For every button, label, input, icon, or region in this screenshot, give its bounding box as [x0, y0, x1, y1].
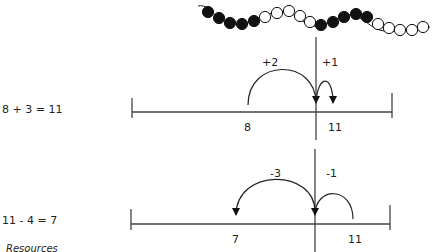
white-bead: [372, 18, 383, 29]
black-bead: [248, 15, 259, 26]
jump-arc-minus-1: [315, 194, 353, 219]
jump-label-plus-2: +2: [262, 56, 278, 69]
white-bead: [283, 5, 294, 16]
white-bead: [417, 21, 428, 32]
black-bead: [315, 19, 326, 30]
white-bead: [271, 7, 282, 18]
black-bead: [327, 16, 338, 27]
white-bead: [294, 10, 305, 21]
jump-label-minus-3: -3: [270, 167, 281, 180]
black-bead: [202, 6, 213, 17]
white-bead: [304, 16, 315, 27]
black-bead: [350, 8, 361, 19]
jump-arc-plus-1: [316, 81, 333, 103]
black-bead: [361, 11, 372, 22]
black-bead: [213, 12, 224, 23]
white-bead: [394, 24, 405, 35]
number-line-diagram: +2 +1 8 11 -3 -1 7 11: [0, 0, 443, 252]
number-line-subtraction: -3 -1 7 11: [131, 149, 390, 252]
white-bead: [406, 24, 417, 35]
jump-label-minus-1: -1: [326, 167, 337, 180]
start-label-11: 11: [348, 233, 362, 246]
end-label-11: 11: [328, 121, 342, 134]
start-label-8: 8: [244, 121, 251, 134]
number-line-addition: +2 +1 8 11: [132, 37, 392, 140]
end-label-7: 7: [232, 233, 239, 246]
bead-string: [198, 5, 430, 35]
jump-arc-minus-3: [236, 179, 315, 215]
jump-label-plus-1: +1: [322, 56, 338, 69]
black-bead: [224, 17, 235, 28]
black-bead: [236, 18, 247, 29]
white-bead: [383, 22, 394, 33]
jump-arc-plus-2: [248, 69, 316, 105]
white-bead: [259, 11, 270, 22]
black-bead: [338, 11, 349, 22]
